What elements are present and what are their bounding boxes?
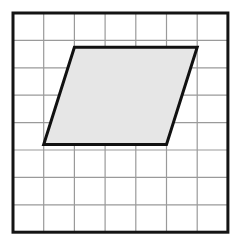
figure-container	[0, 0, 242, 246]
parallelogram-grid-figure	[0, 0, 242, 246]
